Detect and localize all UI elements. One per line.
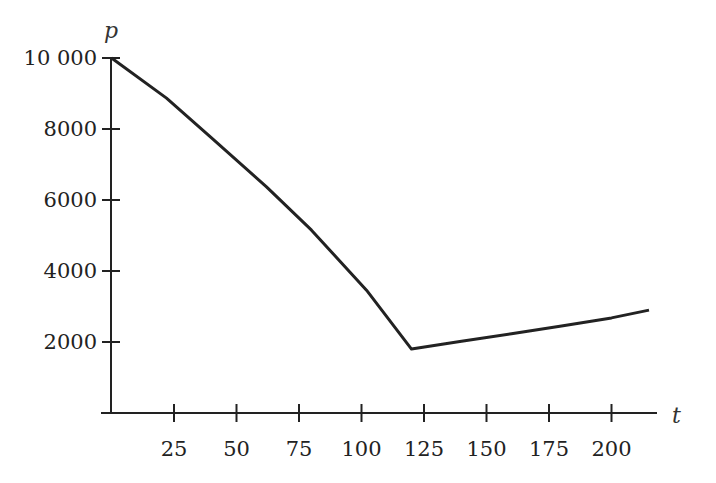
x-tick-label: 50: [223, 437, 250, 461]
x-tick-label: 25: [161, 437, 188, 461]
y-tick-label: 10 000: [24, 46, 97, 70]
chart: 200040006000800010 000 25507510012515017…: [0, 0, 716, 483]
x-tick-label: 100: [341, 437, 381, 461]
y-tick-label: 4000: [44, 259, 97, 283]
y-tick-label: 6000: [44, 188, 97, 212]
x-axis-label: t: [672, 403, 681, 428]
y-tick-label: 8000: [44, 117, 97, 141]
x-tick-label: 75: [286, 437, 313, 461]
x-tick-label: 125: [404, 437, 444, 461]
y-tick-label: 2000: [44, 330, 97, 354]
x-tick-label: 150: [466, 437, 506, 461]
y-axis-label: p: [104, 18, 118, 43]
data-line: [112, 58, 650, 349]
axes: [101, 58, 657, 413]
y-ticks: 200040006000800010 000: [24, 46, 120, 354]
x-tick-label: 200: [591, 437, 631, 461]
x-tick-label: 175: [529, 437, 569, 461]
